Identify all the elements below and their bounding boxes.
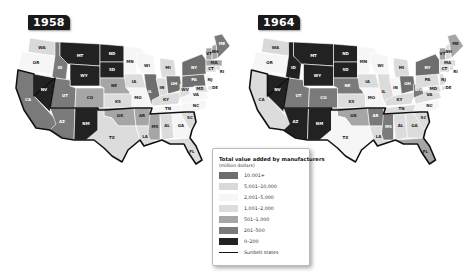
state-fl: [162, 138, 202, 164]
legend-item: 1,001–2,000: [219, 204, 274, 213]
state-label: ME: [219, 41, 226, 46]
state-label: ME: [452, 41, 459, 46]
map-1958: WAORCANVIDMTWYUTAZCONMNDSDNEKSOKTXMNIAMO…: [0, 0, 236, 170]
state-label: TX: [109, 135, 115, 140]
state-label: IN: [393, 85, 398, 90]
state-label: PA: [425, 77, 432, 82]
legend-item-sunbelt: Sunbelt states: [219, 248, 279, 257]
state-label: FL: [423, 149, 429, 154]
state-label: NH: [212, 49, 219, 54]
state-label: MS: [385, 124, 392, 129]
state-label: FL: [189, 149, 195, 154]
state-label: NY: [424, 65, 430, 70]
state-label: RI: [453, 69, 458, 74]
state-label: SD: [342, 67, 349, 72]
state-label: ID: [58, 65, 63, 70]
legend-item: 10,001+: [219, 171, 265, 180]
state-label: VA: [427, 92, 434, 97]
us-map-svg: WAORCANVIDMTWYUTAZCONMNDSDNEKSOKTXMNIAMO…: [0, 0, 236, 170]
legend-swatch: [219, 183, 238, 190]
state-label: NE: [344, 83, 350, 88]
state-label: WI: [144, 63, 150, 68]
state-label: ID: [291, 65, 296, 70]
legend-swatch: [219, 205, 238, 212]
legend-swatch: [219, 227, 238, 234]
sunbelt-line-icon: [219, 252, 238, 253]
state-label: GA: [411, 123, 418, 128]
state-label: IN: [160, 85, 165, 90]
map-1964: WAORCANVIDMTWYUTAZCONMNDSDNEKSOKTXMNIAMO…: [230, 0, 473, 170]
state-label: VA: [193, 92, 200, 97]
state-label: AL: [398, 123, 404, 128]
legend-item: 2,001–5,000: [219, 193, 274, 202]
state-label: LA: [376, 134, 383, 139]
state-label: MI: [399, 65, 405, 70]
legend-subtitle: (million dollars): [219, 163, 255, 168]
state-label: GA: [178, 123, 185, 128]
state-label: WV: [415, 87, 423, 92]
legend-swatch: [219, 216, 238, 223]
state-label: UT: [296, 93, 302, 98]
legend-swatch: [219, 194, 238, 201]
state-label: NY: [191, 65, 197, 70]
state-label: SC: [421, 115, 427, 120]
state-label: MO: [368, 95, 376, 100]
state-label: DE: [445, 85, 451, 90]
state-label: MA: [444, 60, 452, 65]
state-label: WV: [181, 87, 189, 92]
state-label: NE: [111, 83, 117, 88]
state-label: OR: [33, 60, 39, 65]
legend-item: 0–200: [219, 237, 259, 246]
state-label: IL: [381, 89, 385, 94]
state-label: AL: [164, 123, 170, 128]
state-label: NC: [426, 103, 432, 108]
state-label: CA: [25, 97, 32, 102]
state-label: OH: [171, 81, 178, 86]
state-label: KS: [115, 99, 121, 104]
state-label: NM: [316, 121, 323, 126]
state-label: CA: [258, 97, 265, 102]
state-label: CO: [87, 95, 94, 100]
state-label: LA: [142, 134, 149, 139]
state-label: CT: [208, 66, 214, 71]
state-label: OK: [117, 113, 124, 118]
state-label: MN: [360, 59, 367, 64]
state-label: MI: [165, 65, 171, 70]
state-label: MO: [134, 95, 142, 100]
state-label: RI: [220, 69, 225, 74]
state-label: MT: [310, 53, 317, 58]
state-label: MA: [210, 60, 218, 65]
state-label: WI: [378, 63, 384, 68]
state-label: MS: [152, 124, 159, 129]
legend-swatch: [219, 172, 238, 179]
state-label: TN: [398, 106, 404, 111]
state-label: OR: [266, 60, 272, 65]
state-label: AZ: [59, 119, 65, 124]
state-label: NH: [445, 49, 452, 54]
state-label: SD: [109, 67, 116, 72]
legend-item: 5,001–10,000: [219, 182, 277, 191]
state-label: NC: [193, 103, 199, 108]
state-label: WY: [314, 73, 321, 78]
state-label: MT: [77, 53, 84, 58]
state-label: MD: [430, 86, 438, 91]
state-label: MN: [126, 59, 133, 64]
state-label: OK: [350, 113, 357, 118]
state-label: KY: [397, 97, 403, 102]
state-label: AR: [139, 113, 145, 118]
state-label: OH: [404, 81, 411, 86]
state-label: MD: [196, 86, 204, 91]
state-label: SC: [187, 115, 193, 120]
state-label: CO: [320, 95, 327, 100]
state-label: KS: [349, 99, 355, 104]
state-label: NJ: [441, 77, 446, 82]
state-label: WA: [38, 45, 46, 50]
state-label: AZ: [293, 119, 299, 124]
state-label: ND: [109, 51, 116, 56]
state-label: NV: [274, 87, 281, 92]
state-label: TX: [343, 135, 349, 140]
state-label: NV: [41, 87, 48, 92]
legend-item: 501–1,000: [219, 215, 269, 224]
state-label: TN: [165, 106, 171, 111]
state-label: CT: [442, 66, 448, 71]
